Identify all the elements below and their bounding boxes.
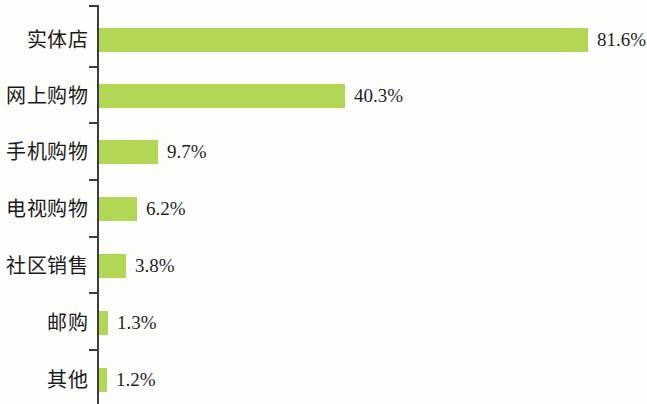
axis-tick	[89, 5, 98, 7]
bar-value-label: 9.7%	[167, 140, 207, 164]
bar	[99, 140, 158, 164]
category-label: 手机购物	[6, 140, 88, 164]
category-label: 实体店	[27, 28, 89, 52]
category-label: 网上购物	[6, 84, 88, 108]
bar-value-label: 1.2%	[116, 368, 156, 392]
bar-row: 其他1.2%	[0, 368, 647, 392]
bar-row: 邮购1.3%	[0, 311, 647, 335]
bar	[99, 368, 107, 392]
axis-tick	[89, 349, 98, 351]
bar	[99, 84, 345, 108]
category-label: 邮购	[47, 311, 88, 335]
axis-tick	[89, 66, 98, 68]
axis-tick	[89, 122, 98, 124]
bar	[99, 28, 588, 52]
bar-row: 实体店81.6%	[0, 28, 647, 52]
category-label: 其他	[47, 368, 88, 392]
horizontal-bar-chart: 实体店81.6%网上购物40.3%手机购物9.7%电视购物6.2%社区销售3.8…	[0, 0, 647, 404]
bar-value-label: 3.8%	[135, 254, 175, 278]
bar-row: 电视购物6.2%	[0, 197, 647, 221]
bar-row: 社区销售3.8%	[0, 254, 647, 278]
bar-value-label: 6.2%	[146, 197, 186, 221]
bar-value-label: 40.3%	[354, 84, 403, 108]
axis-tick	[89, 292, 98, 294]
category-label: 社区销售	[6, 254, 88, 278]
axis-tick	[89, 179, 98, 181]
axis-tick	[89, 236, 98, 238]
bar	[99, 254, 126, 278]
bar	[99, 311, 108, 335]
bar-row: 手机购物9.7%	[0, 140, 647, 164]
bar	[99, 197, 137, 221]
bar-row: 网上购物40.3%	[0, 84, 647, 108]
category-label: 电视购物	[6, 197, 88, 221]
bar-value-label: 81.6%	[597, 28, 646, 52]
bar-value-label: 1.3%	[117, 311, 157, 335]
